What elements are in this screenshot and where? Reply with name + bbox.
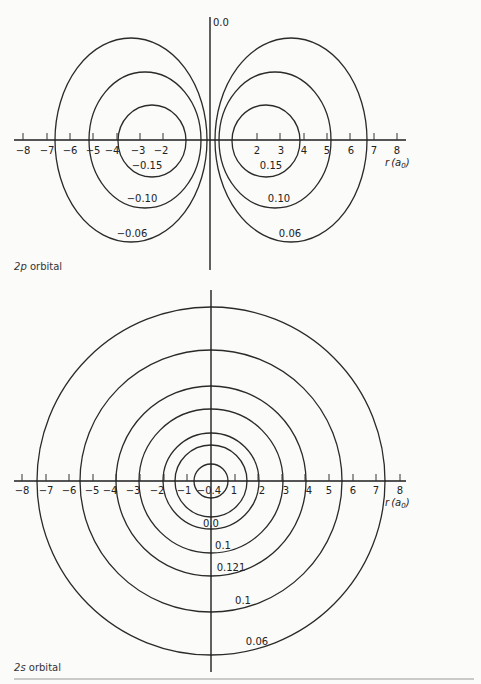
nodal-plane-label: 0.0	[213, 17, 229, 28]
tick-label: 8	[394, 145, 400, 156]
contour-label: 0.06	[279, 228, 301, 239]
tick-label: 3	[283, 485, 289, 496]
caption-2s: 2s orbital	[14, 662, 61, 673]
x-axis-label: r(a0)	[385, 157, 410, 170]
tick-label: −3	[126, 485, 141, 496]
contour-label: 0.0	[203, 518, 219, 529]
orbital-contour-figure: −8 −7 −6 −5 −4 −3 −2 2 3 4 5 6 7 8 r(a0)…	[0, 0, 481, 684]
tick-label: −8	[16, 145, 31, 156]
tick-label: −6	[63, 145, 78, 156]
tick-label: 8	[397, 485, 403, 496]
tick-label: −5	[86, 145, 101, 156]
tick-label: 1	[231, 485, 237, 496]
tick-label: 2	[259, 485, 265, 496]
contour-label: 0.1	[235, 595, 251, 606]
tick-label: 7	[371, 145, 377, 156]
contour-label: −0.15	[132, 160, 163, 171]
tick-label: −8	[15, 485, 30, 496]
plot-2p-orbital: −8 −7 −6 −5 −4 −3 −2 2 3 4 5 6 7 8 r(a0)…	[14, 17, 410, 272]
contour-label: 0.06	[246, 636, 268, 647]
plot-2s-orbital: −8 −7 −6 −5 −4 −3 −2 −1 −0.4 1 2 3 4 5 6…	[14, 290, 410, 673]
x-axis-label: r(a0)	[385, 497, 410, 510]
tick-label: −4	[105, 145, 120, 156]
tick-label: 5	[324, 145, 330, 156]
tick-label: −7	[40, 145, 55, 156]
tick-label: 6	[350, 485, 356, 496]
tick-label: −3	[131, 145, 146, 156]
contour-label: 0.10	[268, 193, 290, 204]
tick-label: −5	[85, 485, 100, 496]
x-tick-labels: −8 −7 −6 −5 −4 −3 −2 −1 −0.4 1 2 3 4 5 6…	[15, 485, 404, 496]
tick-label: 3	[278, 145, 284, 156]
contour-label: 0.1	[215, 540, 231, 551]
tick-label: 4	[301, 145, 307, 156]
x-tick-labels: −8 −7 −6 −5 −4 −3 −2 2 3 4 5 6 7 8	[16, 145, 401, 156]
tick-label: 4	[306, 485, 312, 496]
tick-label: 2	[254, 145, 260, 156]
tick-label: −0.4	[197, 485, 221, 496]
tick-label: −6	[62, 485, 77, 496]
contour-label: −0.06	[117, 228, 148, 239]
contour-label: 0.15	[260, 160, 282, 171]
tick-label: −2	[154, 145, 169, 156]
tick-label: −4	[103, 485, 118, 496]
tick-label: 7	[373, 485, 379, 496]
contour-label: 0.121	[217, 562, 246, 573]
caption-2p: 2p orbital	[14, 261, 62, 272]
tick-label: −1	[177, 485, 192, 496]
tick-label: −7	[39, 485, 54, 496]
tick-label: 5	[326, 485, 332, 496]
tick-label: −2	[150, 485, 165, 496]
contour-label: −0.10	[127, 193, 158, 204]
tick-label: 6	[348, 145, 354, 156]
